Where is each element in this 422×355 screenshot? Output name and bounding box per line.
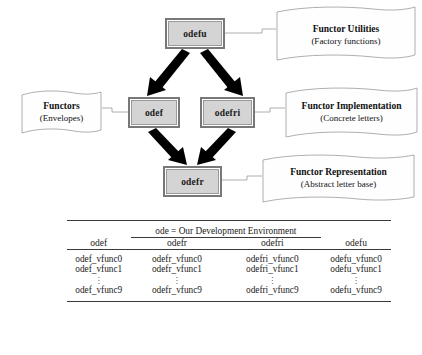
note-implementation-title: Functor Implementation: [302, 101, 402, 113]
connector-odefu-note: [225, 29, 276, 33]
note-utilities: Functor Utilities (Factory functions): [277, 12, 415, 60]
node-odef-label: odef: [145, 108, 163, 118]
node-odefri[interactable]: odefri: [200, 97, 255, 128]
table-ellipsis-row: ... ... ... ...: [67, 274, 391, 285]
note-utilities-title: Functor Utilities: [311, 24, 380, 36]
vertical-dots-icon: ...: [131, 274, 224, 285]
cell-odefri-vfunc9: odefri_vfunc9: [223, 285, 321, 295]
column-header-odefr: odefr: [131, 238, 224, 249]
table-bottom-rule: [67, 298, 391, 302]
note-functors: Functors (Envelopes): [22, 94, 101, 132]
table-row: odef_vfunc1 odefr_vfunc1 odefri_vfunc1 o…: [67, 264, 391, 274]
node-odefu-label: odefu: [183, 29, 207, 39]
connector-odef-note: [102, 108, 128, 112]
arrow-odefri-to-odefr: [197, 128, 236, 165]
table-header-row: odef odefr odefri odefu: [67, 238, 391, 249]
connector-odefri-note: [255, 108, 285, 112]
arrow-odefu-to-odef: [147, 49, 190, 96]
connector-odefr-note: [222, 176, 262, 180]
arrow-odef-to-odefr: [148, 128, 187, 165]
note-implementation-subtitle: (Concrete letters): [302, 113, 402, 124]
note-representation-subtitle: (Abstract letter base): [290, 179, 387, 190]
cell-odefr-vfunc0: odefr_vfunc0: [131, 250, 224, 265]
note-utilities-subtitle: (Factory functions): [311, 36, 380, 47]
table-row: odef_vfunc0 odefr_vfunc0 odefri_vfunc0 o…: [67, 250, 391, 265]
vertical-dots-icon: ...: [223, 274, 321, 285]
table-span-header-row: ode = Our Development Environment: [67, 226, 391, 236]
ode-table: ode = Our Development Environment odef o…: [67, 220, 391, 302]
vertical-dots-icon: ...: [67, 274, 131, 285]
architecture-diagram: .arrowbody{fill:#000;} .conn{fill:none;s…: [0, 0, 422, 210]
column-header-odefu: odefu: [321, 238, 391, 249]
node-odefri-label: odefri: [215, 108, 240, 118]
note-implementation: Functor Implementation (Concrete letters…: [286, 92, 417, 134]
cell-odefr-vfunc9: odefr_vfunc9: [131, 285, 224, 295]
cell-odefu-vfunc9: odefu_vfunc9: [321, 285, 391, 295]
cell-odef-vfunc9: odef_vfunc9: [67, 285, 131, 295]
node-odefr-label: odefr: [181, 177, 204, 187]
node-odef[interactable]: odef: [128, 97, 180, 128]
table-row: odef_vfunc9 odefr_vfunc9 odefri_vfunc9 o…: [67, 285, 391, 295]
node-odefr[interactable]: odefr: [163, 166, 222, 197]
cell-odef-vfunc0: odef_vfunc0: [67, 250, 131, 265]
cell-odefu-vfunc0: odefu_vfunc0: [321, 250, 391, 265]
figure-root: .arrowbody{fill:#000;} .conn{fill:none;s…: [0, 0, 422, 355]
arrow-odefu-to-odefri: [200, 49, 243, 96]
note-functors-subtitle: (Envelopes): [40, 113, 83, 124]
note-representation-title: Functor Representation: [290, 167, 387, 179]
cell-odefri-vfunc0: odefri_vfunc0: [223, 250, 321, 265]
column-header-odef: odef: [67, 238, 131, 249]
note-representation: Functor Representation (Abstract letter …: [263, 158, 414, 200]
table-span-header: ode = Our Development Environment: [131, 226, 322, 236]
vertical-dots-icon: ...: [321, 274, 391, 285]
node-odefu[interactable]: odefu: [165, 18, 225, 49]
note-functors-title: Functors: [40, 101, 83, 113]
ode-table-wrapper: ode = Our Development Environment odef o…: [0, 212, 422, 355]
column-header-odefri: odefri: [223, 238, 321, 249]
